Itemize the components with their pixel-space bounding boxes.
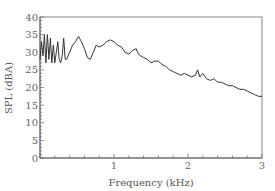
y-tick-label: 20 [25,82,38,93]
y-axis-ticks: 0510152025303540 [25,12,44,164]
y-tick-label: 0 [32,153,38,164]
spl-frequency-chart: 0510152025303540 123 Frequency (kHz) SPL… [0,0,275,191]
y-tick-label: 10 [25,117,38,128]
x-tick-label: 2 [185,160,191,171]
x-axis-ticks: 123 [40,154,265,171]
y-tick-label: 5 [32,135,38,146]
y-tick-label: 30 [25,47,38,58]
y-tick-label: 25 [25,64,38,75]
plot-frame [40,17,262,158]
y-tick-label: 35 [25,29,38,40]
x-tick-label: 1 [111,160,117,171]
y-tick-label: 40 [25,12,38,23]
x-tick-label: 3 [259,160,265,171]
x-axis-label: Frequency (kHz) [108,177,193,188]
spl-curve [40,35,262,97]
y-tick-label: 15 [25,100,38,111]
y-axis-label: SPL (dBA) [3,62,14,114]
